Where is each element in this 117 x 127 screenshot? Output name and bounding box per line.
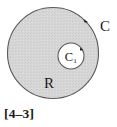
- caption-row: [4–3]: [0, 104, 117, 127]
- diagram-area: C C₁ R: [0, 0, 117, 104]
- label-outer-contour: C: [100, 18, 110, 34]
- figure-caption: [4–3]: [4, 106, 34, 122]
- label-region: R: [44, 75, 54, 91]
- label-inner-contour: C₁: [65, 50, 78, 64]
- figure-container: C C₁ R [4–3]: [0, 0, 117, 127]
- contour-diagram: C C₁ R: [0, 0, 117, 104]
